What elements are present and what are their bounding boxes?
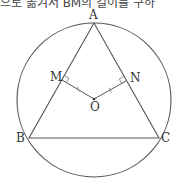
diagram-stage: 으로 옮겨서 BM의 길이를 구하 A B C M N O [0,0,181,190]
segment-om [62,80,94,99]
label-m: M [50,70,62,84]
label-c: C [161,131,170,145]
label-a: A [88,8,98,22]
label-n: N [130,71,141,85]
label-b: B [16,131,25,145]
label-o: O [90,100,100,114]
geometry-diagram: A B C M N O [0,0,181,190]
